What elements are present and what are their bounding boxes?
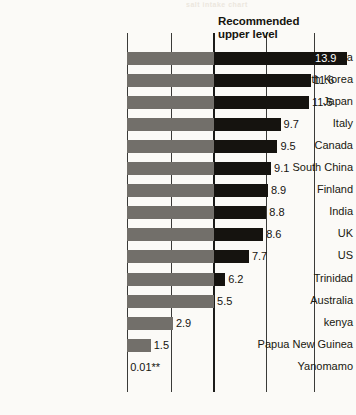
value-bar — [127, 250, 249, 263]
category-label: Trinidad — [232, 272, 356, 284]
bar-segment-below-reference — [127, 118, 214, 131]
bar-segment-below-reference — [127, 52, 214, 65]
bar-segment-above-reference — [214, 184, 268, 197]
value-bar — [127, 206, 266, 219]
value-bar — [127, 118, 281, 131]
bar-row: India8.8 — [0, 206, 356, 219]
category-label: US — [232, 249, 356, 261]
bar-row: kenya2.9 — [0, 317, 356, 330]
value-label: 8.8 — [269, 206, 284, 219]
bar-segment-below-reference — [127, 228, 214, 241]
bar-segment-above-reference — [214, 228, 263, 241]
value-label: 9.1 — [274, 162, 289, 175]
bar-segment-above-reference — [214, 74, 311, 87]
value-bar — [127, 228, 263, 241]
bar-segment-above-reference — [214, 250, 249, 263]
bar-row: Yanomamo0.01** — [0, 361, 356, 374]
bar-segment-below-reference — [127, 273, 214, 286]
value-bar — [127, 273, 225, 286]
annotation-line-1: Recommended — [218, 15, 299, 28]
bar-segment-below-reference — [127, 140, 214, 153]
category-label: Australia — [232, 294, 356, 306]
value-bar — [127, 52, 347, 65]
value-label: 9.7 — [284, 118, 299, 131]
value-label: 6.2 — [228, 273, 243, 286]
bar-row: Australia5.5 — [0, 295, 356, 308]
bar-segment-below-reference — [127, 74, 214, 87]
bar-segment-below-reference — [127, 184, 214, 197]
category-label: Papua New Guinea — [232, 338, 356, 350]
bar-segment-above-reference — [214, 96, 309, 109]
value-label: 7.7 — [252, 250, 267, 263]
recommended-upper-level-annotation: Recommended upper level — [218, 15, 299, 40]
bar-segment-above-reference — [214, 162, 271, 175]
bar-segment-below-reference — [127, 96, 214, 109]
bar-segment-above-reference — [214, 206, 266, 219]
bar-row: South China9.1 — [0, 162, 356, 175]
bar-segment-below-reference — [127, 295, 214, 308]
bar-row: UK8.6 — [0, 228, 356, 241]
value-label: 9.5 — [280, 140, 295, 153]
value-label: 11.6 — [314, 74, 335, 87]
value-label: 13.9 — [315, 52, 336, 65]
category-label: kenya — [232, 316, 356, 328]
value-bar — [127, 295, 214, 308]
bar-row: Italy9.7 — [0, 118, 356, 131]
value-bar — [127, 339, 151, 352]
value-label: 0.01** — [130, 361, 160, 374]
value-bar — [127, 317, 173, 330]
bar-chart-plot-area: North China13.9South Korea11.6Japan11.5I… — [0, 0, 356, 415]
bar-segment-above-reference — [214, 273, 225, 286]
bar-row: North China13.9 — [0, 52, 356, 65]
value-bar — [127, 140, 277, 153]
value-label: 2.9 — [176, 317, 191, 330]
bar-segment-below-reference — [127, 339, 151, 352]
bar-row: Papua New Guinea1.5 — [0, 339, 356, 352]
bar-segment-below-reference — [127, 206, 214, 219]
value-label: 11.5 — [312, 96, 333, 109]
bar-segment-above-reference — [214, 140, 277, 153]
category-label: Yanomamo — [232, 360, 356, 372]
bar-segment-below-reference — [127, 250, 214, 263]
bar-row: Japan11.5 — [0, 96, 356, 109]
bar-segment-below-reference — [127, 162, 214, 175]
bar-row: South Korea11.6 — [0, 74, 356, 87]
value-label: 8.6 — [266, 228, 281, 241]
value-bar — [127, 184, 268, 197]
bar-row: Finland8.9 — [0, 184, 356, 197]
bar-segment-above-reference — [214, 118, 280, 131]
bar-row: Canada9.5 — [0, 140, 356, 153]
value-bar — [127, 74, 311, 87]
value-label: 8.9 — [271, 184, 286, 197]
bar-row: Trinidad6.2 — [0, 273, 356, 286]
chart-root: salt intake chart North China13.9South K… — [0, 0, 356, 415]
value-bar — [127, 162, 271, 175]
bar-row: US7.7 — [0, 250, 356, 263]
value-label: 5.5 — [217, 295, 232, 308]
annotation-line-2: upper level — [218, 28, 299, 41]
bar-segment-below-reference — [127, 317, 173, 330]
value-label: 1.5 — [154, 339, 169, 352]
value-bar — [127, 96, 309, 109]
